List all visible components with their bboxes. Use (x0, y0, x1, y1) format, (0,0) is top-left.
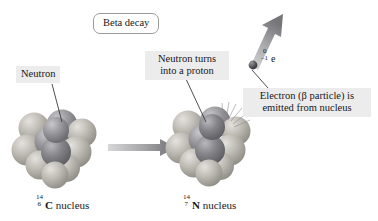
nitrogen-mass-atomic-numbers: 14 7 (183, 196, 192, 209)
nitrogen-symbol: N (192, 199, 200, 211)
electron-notation: 0 –1 e (261, 50, 275, 65)
nitrogen-caption-suffix: nucleus (200, 199, 236, 211)
caption-nitrogen-14-nucleus: 14 7 N nucleus (183, 196, 236, 212)
electron-particle (249, 61, 258, 70)
callout-neutron-turns-into-proton: Neutron turns into a proton (145, 51, 229, 80)
carbon-caption-suffix: nucleus (53, 199, 89, 211)
electron-symbol: e (271, 53, 275, 64)
electron-leader-line (252, 70, 268, 88)
beta-decay-figure: Beta decay Neutron Neutron turns into a … (0, 0, 378, 221)
nitrogen-atomic-number: 7 (185, 201, 189, 208)
callout-neutron: Neutron (16, 66, 60, 83)
beta-decay-title-box: Beta decay (93, 13, 159, 34)
carbon-mass-atomic-numbers: 14 6 (36, 196, 45, 209)
nitrogen-14-nucleus-spheres (166, 107, 251, 187)
electron-mass-charge: 0 –1 (261, 50, 271, 62)
caption-carbon-14-nucleus: 14 6 C nucleus (36, 196, 89, 212)
electron-charge-number: –1 (261, 55, 268, 62)
carbon-atomic-number: 6 (38, 201, 42, 208)
callout-electron-emitted: Electron (β particle) is emitted from nu… (243, 88, 371, 117)
carbon-symbol: C (45, 199, 53, 211)
carbon-14-nucleus-spheres (12, 110, 97, 189)
